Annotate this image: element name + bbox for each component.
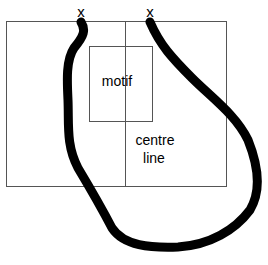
start-marker-x: x — [77, 3, 85, 20]
centre-line-label-2: line — [143, 150, 165, 166]
motif-label: motif — [102, 73, 132, 89]
centre-line-label-1: centre — [136, 132, 175, 148]
end-marker-x: x — [146, 3, 154, 20]
motif-diagram: x x motif centre line — [0, 0, 268, 265]
